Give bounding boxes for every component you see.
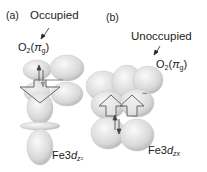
panel-b-fe-dzx-orbital xyxy=(91,89,154,151)
panel-b-o2-label: O2(πg) xyxy=(156,59,187,71)
panel-b-state-label: Unoccupied xyxy=(131,31,192,43)
panel-b-pointer-arrow-icon xyxy=(154,46,160,55)
panel-b-tag: (b) xyxy=(106,12,119,23)
panel-b-minus-sign: − xyxy=(142,89,147,98)
panel-a-o2-label: O2(πg) xyxy=(18,42,49,54)
panel-a-fe-label: Fe3dz² xyxy=(52,150,83,162)
panel-a-tag: (a) xyxy=(6,10,19,21)
panel-b-fe-label: Fe3dzx xyxy=(148,145,180,157)
panel-a-state-label: Occupied xyxy=(30,10,79,22)
panel-a-pointer-arrow-icon xyxy=(41,28,49,39)
